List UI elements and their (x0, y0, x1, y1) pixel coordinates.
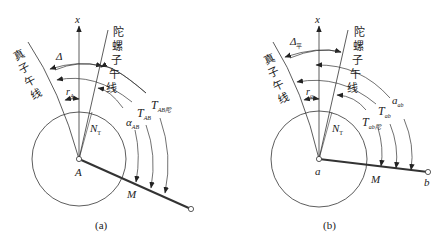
tg-down-arc-a (160, 118, 168, 193)
svg-text:午: 午 (350, 68, 361, 81)
x-axis-label-a: x (74, 13, 80, 25)
x-axis-label-b: x (314, 13, 320, 25)
gyro-meridian-label-b: 陀 螺 子 午 线 (347, 25, 365, 95)
gyro-meridian-b (319, 30, 348, 159)
t-down-arc-b (390, 124, 397, 168)
line-ab (79, 159, 191, 209)
center-label-b: a (315, 165, 321, 177)
m-label-a: M (126, 188, 137, 200)
panel-b: x Δ平 ra aab Tab Tab陀 NT a M b (b) (262, 13, 431, 232)
svg-text:线: 线 (106, 81, 117, 95)
delta-label-b: Δ平 (289, 35, 302, 50)
alpha-down-arc-b (404, 119, 412, 170)
true-meridian-label-b: 真 子 午 线 (262, 50, 292, 106)
alpha-down-arc-a (135, 130, 138, 182)
true-meridian-label-a: 真 子 午 线 (11, 46, 44, 103)
caption-a: (a) (95, 219, 108, 232)
t-label-a: TAB (137, 106, 151, 121)
tg-arc-b (337, 95, 366, 110)
end-label-b: b (424, 176, 430, 188)
nt-label-a: NT (89, 122, 101, 136)
svg-text:陀: 陀 (113, 25, 124, 39)
svg-text:子: 子 (111, 54, 122, 67)
gyro-meridian-label-a: 陀 螺 子 午 线 (106, 25, 124, 95)
svg-text:子: 子 (352, 54, 363, 67)
tg-label-a: TAB陀 (151, 98, 172, 113)
nt-line-b (319, 112, 332, 159)
r-label-b: ra (306, 86, 313, 99)
t-label-b: Tab (378, 104, 391, 119)
t-down-arc-a (146, 125, 153, 188)
svg-text:线: 线 (347, 81, 358, 95)
nt-line-a (79, 112, 92, 159)
tg-down-arc-b (378, 128, 382, 166)
caption-b: (b) (323, 219, 336, 232)
diagram-canvas: x Δ rA TAB陀 TAB αAB NT A M (a (0, 0, 444, 241)
point-b (425, 169, 430, 174)
delta-label-a: Δ (55, 50, 62, 62)
gyro-meridian-a (79, 30, 108, 159)
svg-text:螺: 螺 (112, 40, 123, 53)
nt-label-b: NT (331, 122, 343, 136)
alpha-label-b: aab (392, 94, 404, 108)
point-b-end (188, 206, 193, 211)
point-a (76, 156, 81, 161)
point-a-b (316, 156, 321, 161)
m-label-b: M (370, 173, 381, 185)
panel-a: x Δ rA TAB陀 TAB αAB NT A M (a (11, 13, 193, 232)
svg-text:陀: 陀 (354, 25, 365, 39)
delta-arc-b (290, 50, 341, 58)
svg-text:螺: 螺 (353, 40, 364, 53)
svg-text:午: 午 (109, 68, 120, 81)
center-label-a: A (74, 166, 82, 178)
r-label-a: rA (66, 86, 74, 99)
